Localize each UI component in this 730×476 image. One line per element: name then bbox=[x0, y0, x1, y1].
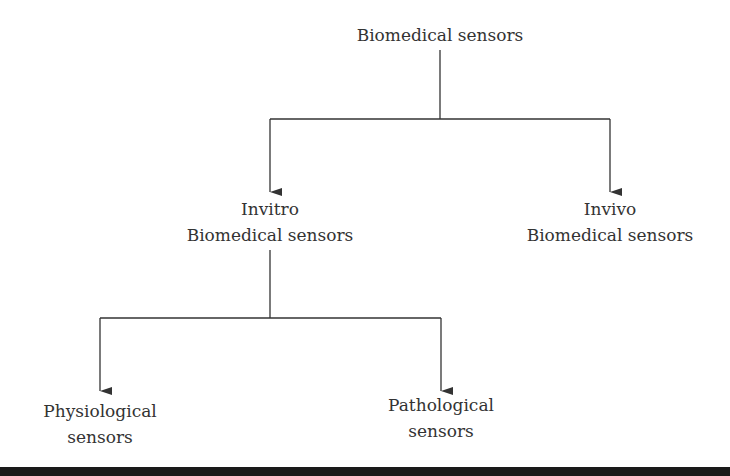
node-label-line2: Biomedical sensors bbox=[527, 222, 694, 248]
node-label-line2: Biomedical sensors bbox=[187, 222, 354, 248]
node-label-line2: sensors bbox=[43, 424, 156, 450]
node-pathological-sensors: Pathological sensors bbox=[388, 392, 494, 444]
node-physiological-sensors: Physiological sensors bbox=[43, 398, 156, 450]
node-label: Biomedical sensors bbox=[357, 22, 524, 48]
node-invivo-sensors: Invivo Biomedical sensors bbox=[527, 196, 694, 248]
node-invitro-sensors: Invitro Biomedical sensors bbox=[187, 196, 354, 248]
node-label-line1: Invitro bbox=[187, 196, 354, 222]
node-label-line1: Invivo bbox=[527, 196, 694, 222]
node-label-line1: Pathological bbox=[388, 392, 494, 418]
node-label-line2: sensors bbox=[388, 418, 494, 444]
bottom-rule bbox=[0, 467, 730, 476]
node-biomedical-sensors: Biomedical sensors bbox=[357, 22, 524, 48]
diagram-canvas: Biomedical sensors Invitro Biomedical se… bbox=[0, 0, 730, 476]
node-label-line1: Physiological bbox=[43, 398, 156, 424]
